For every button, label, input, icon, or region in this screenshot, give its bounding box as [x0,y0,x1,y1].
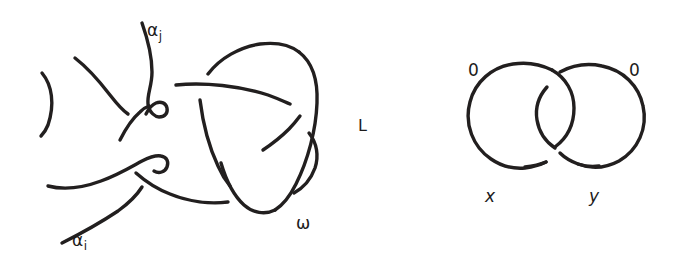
arc-upper-left-diagonal [75,58,128,114]
label-alpha-i-subscript: i [83,239,87,253]
arc-omega-upper-left [208,43,299,74]
hopf-link-group [468,63,644,168]
label-link-L: L [358,118,367,134]
label-alpha-i-base: α [72,230,83,250]
hopf-tail-x [525,162,546,167]
label-component-y: y [589,188,599,205]
label-component-x: x [485,188,495,205]
hopf-tail-y [578,164,599,166]
figure-canvas: αj αi ω L 0 0 x y [0,0,674,272]
left-tangle-group [41,23,317,243]
label-alpha-j: αj [147,22,162,42]
label-alpha-j-base: α [147,20,158,40]
label-framing-left: 0 [468,62,479,79]
arc-omega-inner-diagonal [263,116,300,150]
label-alpha-i: αi [72,232,87,252]
hopf-right-under-arc [536,87,555,148]
hopf-left-component [468,63,552,168]
arc-omega-bottom-left [221,163,275,213]
label-framing-right: 0 [629,62,640,79]
label-alpha-j-subscript: j [158,29,162,43]
arc-crescent-far-left [41,73,52,136]
arc-upper-horizontal-over [176,84,290,104]
knot-diagram-svg [0,0,674,272]
arc-omega-right-side [275,52,317,210]
hopf-left-over-arc [552,70,574,147]
arc-lower-right-horizontal [136,173,228,203]
label-omega: ω [296,215,310,232]
